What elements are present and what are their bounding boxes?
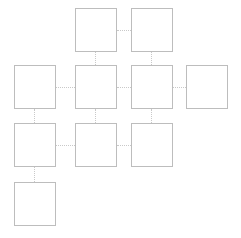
diagram-canvas <box>0 0 241 238</box>
connector-horizontal <box>117 145 131 146</box>
connector-vertical <box>151 52 152 65</box>
node-box[interactable] <box>14 65 56 109</box>
node-box[interactable] <box>14 123 56 167</box>
connector-horizontal <box>117 87 131 88</box>
connector-horizontal <box>117 30 131 31</box>
connector-horizontal <box>56 145 75 146</box>
connector-vertical <box>34 109 35 123</box>
node-box[interactable] <box>75 65 117 109</box>
node-box[interactable] <box>131 8 173 52</box>
connector-horizontal <box>173 87 186 88</box>
connector-horizontal <box>56 87 75 88</box>
node-box[interactable] <box>75 8 117 52</box>
node-box[interactable] <box>131 65 173 109</box>
node-box[interactable] <box>14 182 56 226</box>
node-box[interactable] <box>131 123 173 167</box>
connector-vertical <box>95 109 96 123</box>
node-box[interactable] <box>186 65 228 109</box>
connector-vertical <box>95 52 96 65</box>
node-box[interactable] <box>75 123 117 167</box>
connector-vertical <box>34 167 35 182</box>
connector-vertical <box>151 109 152 123</box>
